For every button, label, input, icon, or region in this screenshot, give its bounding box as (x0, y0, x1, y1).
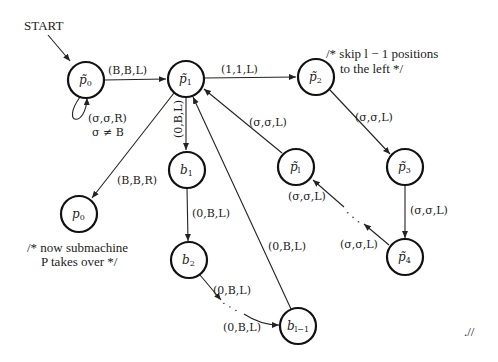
comment-skip-line2: to the left */ (340, 61, 404, 76)
label-pt2-pt3: (σ,σ,L) (355, 111, 393, 124)
start-label: START (24, 18, 63, 33)
label-bl1-pt1: (0,B,L) (268, 240, 306, 253)
label-pt3-pt4: (σ,σ,L) (410, 204, 448, 217)
label-dots-bl1: (0,B,L) (223, 321, 261, 334)
label-b2-dots: (0,B,L) (213, 284, 251, 297)
ellipsis-b-chain: . . . (221, 294, 243, 314)
label-b1-b2: (0,B,L) (192, 207, 230, 220)
label-pt1-pt2: (1,1,L) (221, 63, 258, 76)
label-pt0-pt1: (B,B,L) (108, 64, 147, 77)
node-p-0: p0 (61, 196, 97, 232)
comment-submachine-line2: P takes over */ (41, 254, 118, 269)
node-p-tilde-1: p̃1 (168, 61, 204, 97)
node-b-l-minus-1: bl−1 (280, 308, 316, 344)
label-pt0-loop: (σ,σ,R) (88, 112, 127, 125)
node-p-tilde-2: p̃2 (298, 59, 334, 95)
comment-submachine-line1: /* now submachine (27, 240, 128, 255)
edge-pt0-loop (72, 97, 87, 119)
node-p-tilde-4: p̃4 (387, 239, 423, 275)
node-p-tilde-l: p̃l (278, 149, 314, 185)
node-p-tilde-0: p̃0 (68, 62, 104, 98)
turing-machine-diagram: START . . . . . . (B,B,L) (σ,σ,R) σ ≠ B … (0, 0, 498, 362)
start-arrow (48, 35, 70, 61)
node-b-2: b2 (171, 242, 207, 278)
comment-skip-line1: /* skip l − 1 positions (326, 46, 438, 61)
node-b-1: b1 (169, 152, 205, 188)
label-pt1-b1: (0,B,L) (172, 100, 185, 138)
label-ptl-pt1: (σ,σ,L) (249, 116, 287, 129)
label-pt1-p0: (B,B,R) (117, 174, 157, 187)
label-pt0-loop-cond: σ ≠ B (92, 126, 124, 139)
label-dots-ptl: (σ,σ,L) (288, 190, 326, 203)
label-pt4-dots: (σ,σ,L) (340, 238, 378, 251)
edge-pt0-pt1 (104, 79, 166, 80)
edge-pt1-pt2 (204, 77, 296, 78)
edge-b1-b2 (187, 188, 188, 241)
ellipsis-p-chain: . . . (344, 204, 366, 225)
end-mark: .// (464, 324, 475, 339)
node-p-tilde-3: p̃3 (387, 149, 423, 185)
